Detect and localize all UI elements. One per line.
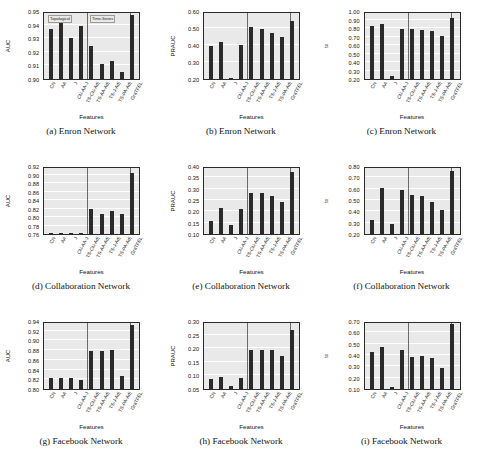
bar-GraTFEL bbox=[130, 15, 134, 79]
bar-TS-PA-Adj bbox=[440, 36, 444, 79]
y-axis-ticks-b: 0.200.300.400.500.60 bbox=[161, 12, 201, 82]
y-tick-label: 0.90 bbox=[349, 18, 360, 24]
bar-J bbox=[229, 78, 233, 79]
x-axis-ticks-d: CNAAJCN-AA-JTS-CN-AdjTS-AA-AdjTS-J-AdjTS… bbox=[43, 236, 140, 270]
y-tick-label: 0.10 bbox=[188, 232, 199, 238]
y-tick-label: 0.50 bbox=[349, 52, 360, 58]
y-axis-ticks-c: 0.200.300.400.500.600.700.800.901.00 bbox=[322, 12, 362, 82]
y-tick-label: 0.80 bbox=[28, 215, 39, 221]
panel-caption-f: (f) Collaboration Network bbox=[322, 281, 482, 291]
y-tick-label: 0.94 bbox=[28, 319, 39, 325]
bar-CN bbox=[370, 26, 374, 79]
y-tick-label: 0.50 bbox=[349, 342, 360, 348]
y-tick-label: 0.20 bbox=[349, 77, 360, 83]
x-tick-label: J bbox=[73, 81, 79, 85]
x-tick-label: CN bbox=[209, 81, 217, 89]
x-axis-ticks-g: CNAAJCN-AA-JTS-CN-AdjTS-AA-AdjTS-J-AdjTS… bbox=[43, 391, 140, 425]
bar-GraTFEL bbox=[450, 171, 454, 234]
plot-area-c bbox=[364, 12, 461, 80]
bar-CN bbox=[49, 29, 53, 79]
y-tick-label: 0.82 bbox=[28, 207, 39, 213]
x-axis-ticks-i: CNAAJCN-AA-JTS-CN-AdjTS-AA-AdjTS-J-AdjTS… bbox=[364, 391, 461, 425]
bar-J bbox=[69, 378, 73, 389]
bar-TS-CN-Adj bbox=[410, 357, 414, 389]
y-tick-label: 0.78 bbox=[28, 224, 39, 230]
bar-AA bbox=[380, 188, 384, 234]
bar-TS-CN-Adj bbox=[89, 46, 93, 79]
y-tick-label: 0.20 bbox=[188, 209, 199, 215]
bar-CN bbox=[49, 378, 53, 389]
x-tick-label: J bbox=[73, 391, 79, 395]
x-tick-label: AA bbox=[60, 81, 67, 89]
bar-TS-CN-Adj bbox=[89, 351, 93, 389]
bar-TS-J-Adj bbox=[110, 61, 114, 79]
bar-CN bbox=[370, 220, 374, 234]
bar-AA bbox=[219, 208, 223, 234]
bar-GraTFEL bbox=[290, 21, 294, 79]
bar-CN bbox=[209, 221, 213, 234]
panel-caption-h: (h) Facebook Network bbox=[161, 436, 321, 446]
y-tick-label: 0.05 bbox=[188, 387, 199, 393]
bar-TS-J-Adj bbox=[430, 202, 434, 234]
y-tick-label: 0.60 bbox=[349, 330, 360, 336]
bar-J bbox=[69, 38, 73, 79]
x-axis-label-g: Features bbox=[43, 423, 140, 430]
x-tick-label: CN bbox=[370, 391, 378, 399]
plot-area-b bbox=[203, 12, 300, 80]
y-tick-label: 1.00 bbox=[349, 9, 360, 15]
panel-caption-b: (b) Enron Network bbox=[161, 126, 321, 136]
y-tick-label: 0.80 bbox=[349, 26, 360, 32]
y-tick-label: 0.10 bbox=[188, 373, 199, 379]
y-tick-label: 0.84 bbox=[28, 198, 39, 204]
x-tick-label: J bbox=[233, 391, 239, 395]
x-tick-label: AA bbox=[220, 236, 227, 244]
bar-TS-J-Adj bbox=[270, 350, 274, 389]
plot-area-d bbox=[43, 167, 140, 235]
chart-panel-g: AUC0.800.820.840.860.880.900.920.94CNAAJ… bbox=[1, 310, 161, 465]
y-tick-label: 0.86 bbox=[28, 358, 39, 364]
x-tick-label: J bbox=[233, 81, 239, 85]
bar-TS-CN-Adj bbox=[249, 27, 253, 79]
bar-AA bbox=[219, 377, 223, 389]
x-tick-label: CN bbox=[370, 81, 378, 89]
chart-panel-e: PRAUC0.100.150.200.250.300.350.40CNAAJCN… bbox=[161, 155, 321, 310]
x-tick-label: CN bbox=[370, 236, 378, 244]
x-tick-label: AA bbox=[220, 391, 227, 399]
bar-CN-AA-J bbox=[239, 209, 243, 234]
bar-TS-J-Adj bbox=[430, 358, 434, 390]
y-tick-label: 0.90 bbox=[28, 338, 39, 344]
x-axis-label-a: Features bbox=[43, 113, 140, 120]
bar-TS-AA-Adj bbox=[260, 350, 264, 389]
bar-CN-AA-J bbox=[79, 233, 83, 234]
y-tick-label: 0.40 bbox=[349, 353, 360, 359]
bar-TS-J-Adj bbox=[110, 211, 114, 234]
y-tick-label: 0.15 bbox=[188, 360, 199, 366]
bar-TS-CN-Adj bbox=[410, 195, 414, 234]
y-tick-label: 0.30 bbox=[188, 187, 199, 193]
y-tick-label: 0.92 bbox=[28, 50, 39, 56]
y-tick-label: 0.30 bbox=[349, 69, 360, 75]
panel-caption-e: (e) Collaboration Network bbox=[161, 281, 321, 291]
bar-CN-AA-J bbox=[79, 26, 83, 79]
bar-J bbox=[390, 387, 394, 389]
bar-TS-AA-Adj bbox=[100, 64, 104, 79]
bar-TS-PA-Adj bbox=[440, 210, 444, 234]
y-tick-label: 0.15 bbox=[188, 221, 199, 227]
bar-CN bbox=[49, 233, 53, 234]
y-tick-label: 0.80 bbox=[28, 387, 39, 393]
bar-CN-AA-J bbox=[400, 29, 404, 79]
bar-TS-AA-Adj bbox=[420, 30, 424, 79]
bar-GraTFEL bbox=[290, 330, 294, 389]
y-axis-ticks-h: 0.050.100.150.200.250.30 bbox=[161, 322, 201, 392]
y-axis-ticks-f: 0.200.300.400.500.600.700.80 bbox=[322, 167, 362, 237]
x-tick-label: CN bbox=[209, 236, 217, 244]
chart-panel-f: 500.200.300.400.500.600.700.80CNAAJCN-AA… bbox=[322, 155, 482, 310]
plot-area-g bbox=[43, 322, 140, 390]
chart-panel-b: PRAUC0.200.300.400.500.60CNAAJCN-AA-JTS-… bbox=[161, 0, 321, 155]
bar-series-a bbox=[44, 13, 139, 79]
bar-series-g bbox=[44, 323, 139, 389]
bar-J bbox=[69, 233, 73, 234]
y-tick-label: 0.30 bbox=[188, 60, 199, 66]
chart-panel-h: PRAUC0.050.100.150.200.250.30CNAAJCN-AA-… bbox=[161, 310, 321, 465]
y-tick-label: 0.82 bbox=[28, 377, 39, 383]
